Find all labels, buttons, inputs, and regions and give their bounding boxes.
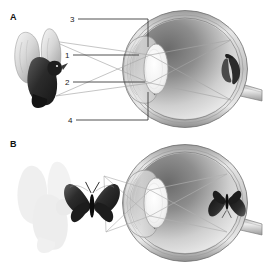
lens-a: [144, 44, 168, 94]
object-pigeon-a: [15, 29, 68, 108]
lens-b: [144, 178, 168, 228]
callout-number-3: 3: [70, 16, 74, 24]
object-butterfly-b: [64, 182, 120, 222]
panel-a-artwork: [0, 0, 263, 134]
eye-image-formation-figure: A: [0, 0, 263, 268]
panel-b-artwork: [0, 134, 263, 268]
callout-number-4: 4: [68, 117, 72, 125]
callout-number-1: 1: [65, 52, 69, 60]
callout-number-2: 2: [65, 79, 69, 87]
panel-b: B: [0, 134, 263, 268]
panel-a: A: [0, 0, 263, 134]
